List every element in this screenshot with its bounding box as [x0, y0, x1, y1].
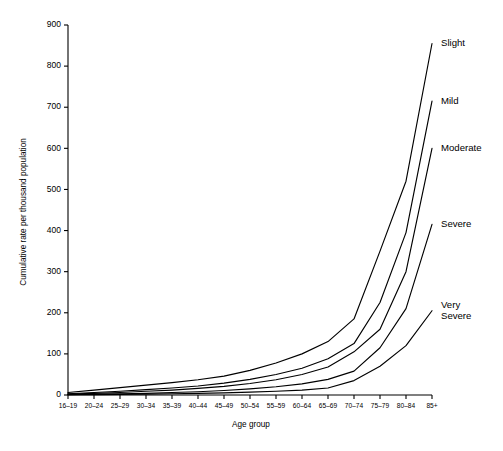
- y-tick-label: 400: [47, 225, 61, 235]
- y-tick-label: 100: [47, 348, 61, 358]
- x-tick-label: 16–19: [59, 402, 78, 409]
- x-axis-ticks: [68, 395, 432, 399]
- y-tick-label: 700: [47, 101, 61, 111]
- x-tick-label: 20–24: [85, 402, 104, 409]
- chart-figure: 0100200300400500600700800900 16–1920–242…: [0, 0, 503, 451]
- y-tick-label: 200: [47, 307, 61, 317]
- x-tick-label: 30–34: [137, 402, 156, 409]
- series-label-severe: Severe: [441, 218, 471, 229]
- series-label-very-severe: Very: [441, 299, 460, 310]
- x-axis-title: Age group: [232, 420, 270, 429]
- x-tick-label: 55–59: [267, 402, 286, 409]
- cumulative-rate-line-chart: 0100200300400500600700800900 16–1920–242…: [0, 0, 503, 451]
- x-tick-label: 25–29: [111, 402, 130, 409]
- y-axis: 0100200300400500600700800900: [47, 19, 68, 399]
- series-label-very-severe: Severe: [441, 310, 471, 321]
- x-tick-label: 40–44: [189, 402, 208, 409]
- series-label-mild: Mild: [441, 95, 459, 106]
- x-axis-tick-labels: 16–1920–2425–2930–3435–3940–4445–4950–54…: [59, 402, 438, 409]
- series-inline-labels: SlightMildModerateSevereVerySevere: [441, 37, 482, 321]
- data-series-lines: [68, 44, 432, 395]
- series-line-moderate: [68, 148, 432, 394]
- x-tick-label: 80–84: [397, 402, 416, 409]
- series-line-severe: [68, 224, 432, 394]
- x-tick-label: 50–54: [241, 402, 260, 409]
- y-tick-label: 500: [47, 184, 61, 194]
- x-tick-label: 45–49: [215, 402, 234, 409]
- x-axis: 16–1920–2425–2930–3435–3940–4445–4950–54…: [59, 395, 438, 409]
- series-line-slight: [68, 44, 432, 393]
- x-tick-label: 75–79: [371, 402, 390, 409]
- y-tick-label: 300: [47, 266, 61, 276]
- y-tick-label: 800: [47, 60, 61, 70]
- x-tick-label: 35–39: [163, 402, 182, 409]
- series-label-slight: Slight: [441, 37, 465, 48]
- series-label-moderate: Moderate: [441, 142, 482, 153]
- x-tick-label: 70–74: [345, 402, 364, 409]
- y-tick-label: 900: [47, 19, 61, 29]
- series-line-very-severe: [68, 311, 432, 395]
- x-tick-label: 65–69: [319, 402, 338, 409]
- y-axis-title: Cumulative rate per thousand population: [19, 138, 28, 286]
- y-axis-ticks: [64, 25, 68, 395]
- y-axis-tick-labels: 0100200300400500600700800900: [47, 19, 61, 399]
- x-tick-label: 60–64: [293, 402, 312, 409]
- y-tick-label: 600: [47, 143, 61, 153]
- y-tick-label: 0: [56, 389, 61, 399]
- x-tick-label: 85+: [426, 402, 437, 409]
